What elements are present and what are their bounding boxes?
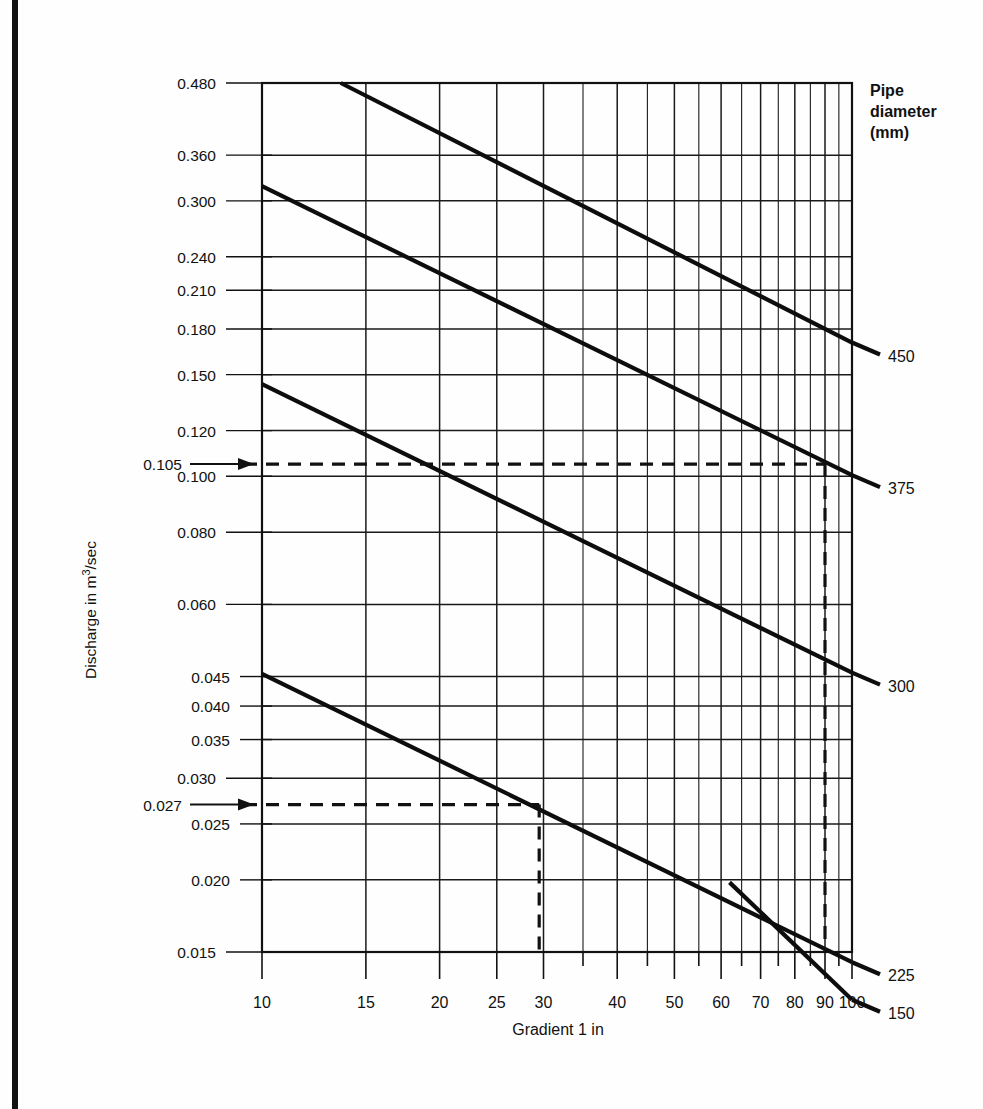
x-tick-label: 40: [608, 994, 626, 1011]
series-label-375: 375: [888, 480, 915, 497]
series-label-225: 225: [888, 967, 915, 984]
series-label-450: 450: [888, 348, 915, 365]
series-leader-300: [852, 673, 880, 685]
plot-frame: [262, 83, 852, 952]
legend-title-line-3: (mm): [870, 124, 909, 141]
y-tick-label: 0.030: [177, 770, 216, 787]
series-label-300: 300: [888, 678, 915, 695]
y-tick-label: 0.180: [177, 321, 216, 338]
legend-title-line-1: Pipe: [870, 82, 904, 99]
page-canvas: 1015202530405060708090100 0.0150.0200.02…: [0, 0, 983, 1109]
series-line-225: [262, 674, 852, 962]
y-tick-label: 0.020: [191, 872, 230, 889]
x-tick-label: 70: [752, 994, 770, 1011]
series-line-375: [262, 186, 852, 475]
data-series-lines: [262, 83, 880, 1012]
x-tick-label: 30: [535, 994, 553, 1011]
x-tick-label: 15: [357, 994, 375, 1011]
x-tick-label: 60: [712, 994, 730, 1011]
series-line-150: [730, 882, 852, 999]
y-tick-label: 0.080: [177, 524, 216, 541]
x-axis-title: Gradient 1 in: [512, 1021, 604, 1038]
y-tick-label: 0.120: [177, 423, 216, 440]
vertical-gridlines: [262, 83, 852, 952]
y-tick-label: 0.150: [177, 367, 216, 384]
y-tick-label: 0.025: [191, 816, 230, 833]
y-tick-label: 0.480: [177, 75, 216, 92]
x-tick-label: 90: [816, 994, 834, 1011]
series-leader-225: [852, 962, 880, 974]
y-tick-label: 0.045: [191, 669, 230, 686]
annotation-value-labels: 0.1050.027: [143, 456, 182, 814]
annot-0027-label: 0.027: [143, 797, 182, 814]
x-tick-label: 50: [665, 994, 683, 1011]
annot-0027-arrow-head: [238, 799, 254, 811]
y-tick-label: 0.240: [177, 249, 216, 266]
annot-0105-arrow-head: [238, 458, 254, 470]
series-end-labels: 450375300225150: [888, 348, 915, 1022]
y-axis-ticks: [226, 83, 272, 952]
y-tick-label: 0.100: [177, 468, 216, 485]
legend-title-line-2: diameter: [870, 103, 937, 120]
y-tick-label: 0.300: [177, 193, 216, 210]
y-tick-label: 0.035: [191, 732, 230, 749]
x-tick-label: 25: [488, 994, 506, 1011]
discharge-gradient-nomogram: 1015202530405060708090100 0.0150.0200.02…: [0, 0, 983, 1109]
series-label-150: 150: [888, 1005, 915, 1022]
series-leader-375: [852, 475, 880, 487]
x-axis-ticks: [262, 952, 852, 979]
series-leader-450: [852, 343, 880, 355]
x-tick-label: 100: [839, 994, 866, 1011]
y-tick-label: 0.040: [191, 698, 230, 715]
y-tick-label: 0.060: [177, 596, 216, 613]
y-tick-label: 0.210: [177, 282, 216, 299]
x-tick-label: 20: [431, 994, 449, 1011]
x-tick-label: 80: [786, 994, 804, 1011]
y-tick-label: 0.015: [177, 944, 216, 961]
annot-0105-label: 0.105: [143, 456, 182, 473]
y-axis-title-group: Discharge in m3/sec: [80, 541, 99, 679]
y-tick-label: 0.360: [177, 147, 216, 164]
series-line-450: [341, 83, 852, 343]
plot-border: [262, 83, 852, 952]
x-axis-tick-labels: 1015202530405060708090100: [253, 994, 865, 1011]
y-axis-tick-labels: 0.0150.0200.0250.0300.0350.0400.0450.060…: [177, 75, 230, 961]
y-axis-title: Discharge in m3/sec: [80, 541, 99, 679]
series-line-300: [262, 384, 852, 673]
horizontal-gridlines: [262, 83, 852, 952]
x-tick-label: 10: [253, 994, 271, 1011]
